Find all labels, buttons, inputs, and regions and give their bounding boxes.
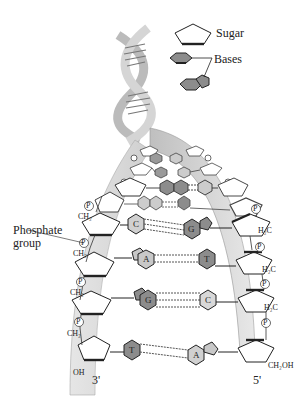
ch2-label: CH₂ (67, 330, 81, 338)
double-helix-icon (118, 28, 152, 142)
phosphate-symbol: P (81, 239, 85, 247)
right-backbone-band (150, 128, 255, 352)
phosphate-symbol: P (262, 280, 266, 288)
ch2-label: CH₂ (73, 250, 87, 258)
h2c-label: H₂C (258, 227, 272, 235)
ch2-label: CH₂ (78, 213, 92, 221)
oh-label: OH (73, 369, 85, 377)
five-prime-end-label: 5' (253, 374, 261, 386)
phosphate-symbol: P (78, 278, 82, 286)
phosphate-symbol: P (253, 205, 257, 213)
base-letter-a: A (193, 351, 200, 360)
dna-structure-diagram: Sugar Bases Phosphate group P P P P P P … (0, 0, 305, 403)
phosphate-group-label: Phosphate (13, 224, 62, 236)
three-prime-end-label: 3' (92, 374, 100, 386)
phosphate-symbol: P (257, 243, 261, 251)
base-letter-t: T (204, 255, 210, 264)
legend-bases-label: Bases (214, 53, 242, 65)
base-letter-c: C (205, 296, 211, 305)
phosphate-group-label-2: group (13, 237, 41, 249)
diagram-graphics (0, 0, 305, 403)
ch2-label: CH₂ (70, 289, 84, 297)
phosphate-symbol: P (76, 318, 80, 326)
base-letter-t: T (129, 346, 135, 355)
phosphate-symbol: P (86, 202, 90, 210)
base-letter-g: G (188, 225, 195, 234)
ch2oh-label: CH₂OH (268, 362, 293, 370)
h2c-label: H₂C (262, 266, 276, 274)
legend-sugar-label: Sugar (216, 27, 244, 39)
base-letter-g: G (145, 296, 152, 305)
base-letter-c: C (133, 220, 139, 229)
base-letter-a: A (143, 255, 150, 264)
h2c-label: H₂C (264, 304, 278, 312)
phosphate-symbol: P (263, 319, 267, 327)
